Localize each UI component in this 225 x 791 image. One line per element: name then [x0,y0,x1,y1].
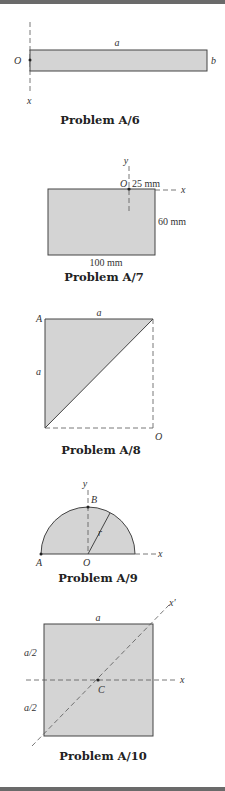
figure-a6: a b O x Problem A/6 [14,22,216,127]
label-top-a: a [97,307,102,318]
centroid-point [96,678,99,681]
label-width: 100 mm [89,257,122,268]
label-origin: O [155,431,162,442]
caption-a10: Problem A/10 [59,749,146,763]
origin-point [29,59,32,62]
label-origin: O [120,178,127,189]
label-x-axis: x [179,674,185,685]
label-x-prime: x′ [168,597,176,608]
caption-a8: Problem A/8 [61,443,140,457]
label-origin: O [14,55,21,66]
label-C: C [98,684,105,695]
label-upper-half: a/2 [24,647,37,658]
label-A: A [35,557,43,568]
label-x-axis: x [180,184,186,195]
point-A [40,553,43,556]
label-y-axis: y [82,478,88,489]
label-lower-half: a/2 [24,702,37,713]
point-B [87,506,90,509]
label-offset: 25 mm [132,178,160,189]
label-x-axis: x [157,548,163,559]
caption-a6: Problem A/6 [60,113,139,127]
label-B: B [91,494,97,505]
origin-point [127,187,130,190]
label-a: a [115,37,120,48]
figures-canvas: a b O x Problem A/6 y x O 25 mm 60 mm 10… [0,0,225,791]
figure-a9: y B r x A O Problem A/9 [35,478,163,585]
figure-a7: y x O 25 mm 60 mm 100 mm Problem A/7 [48,155,186,284]
label-b: b [211,55,216,66]
label-height: 60 mm [158,216,186,227]
caption-a9: Problem A/9 [58,571,137,585]
label-top-a: a [96,612,101,623]
figure-a8: A a a O Problem A/8 [35,307,162,457]
label-origin: O [83,557,90,568]
triangle [45,319,153,428]
label-r: r [98,527,102,538]
rectangle [48,189,155,255]
label-x-axis: x [26,95,32,106]
thin-rectangle [30,50,207,71]
figure-a10: a a/2 a/2 C x x′ Problem A/10 [24,597,185,763]
caption-a7: Problem A/7 [64,270,143,284]
label-A: A [35,313,43,324]
label-y-axis: y [123,155,129,166]
label-left-a: a [36,366,41,377]
